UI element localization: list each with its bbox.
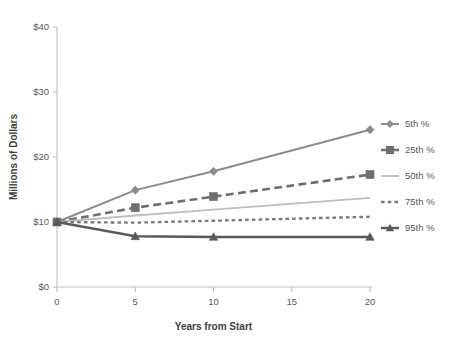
y-axis-title: Millions of Dollars bbox=[8, 114, 19, 201]
legend-item-5th-[interactable]: 5th % bbox=[381, 118, 430, 129]
chart-container: $0$10$20$30$4005101520Millions of Dollar… bbox=[0, 0, 449, 339]
data-point-25th--x20 bbox=[366, 171, 374, 179]
data-point-5th--x10 bbox=[209, 167, 217, 175]
y-axis-tick-label-40: $40 bbox=[33, 21, 49, 32]
data-point-5th--x5 bbox=[131, 186, 139, 194]
x-axis-tick-label-10: 10 bbox=[208, 296, 219, 307]
x-axis-tick-label-15: 15 bbox=[286, 296, 297, 307]
legend-item-75th-[interactable]: 75th % bbox=[381, 196, 435, 207]
y-axis-tick-label-10: $10 bbox=[33, 216, 49, 227]
legend-marker-square-icon bbox=[386, 146, 394, 154]
x-axis-title: Years from Start bbox=[175, 321, 253, 332]
legend-item-95th-[interactable]: 95th % bbox=[381, 222, 435, 233]
data-point-25th--x10 bbox=[210, 193, 218, 201]
x-axis-tick-label-20: 20 bbox=[365, 296, 376, 307]
legend-marker-diamond-icon bbox=[386, 120, 394, 128]
legend-label: 75th % bbox=[405, 196, 435, 207]
legend-label: 95th % bbox=[405, 222, 435, 233]
y-axis-tick-label-30: $30 bbox=[33, 86, 49, 97]
series-line-5th- bbox=[57, 130, 370, 222]
x-axis-tick-label-5: 5 bbox=[133, 296, 138, 307]
legend-item-50th-[interactable]: 50th % bbox=[381, 170, 435, 181]
x-axis-tick-label-0: 0 bbox=[54, 296, 59, 307]
legend-label: 25th % bbox=[405, 144, 435, 155]
line-chart: $0$10$20$30$4005101520Millions of Dollar… bbox=[0, 0, 449, 339]
y-axis-tick-label-20: $20 bbox=[33, 151, 49, 162]
legend-label: 5th % bbox=[405, 118, 430, 129]
legend-item-25th-[interactable]: 25th % bbox=[381, 144, 435, 155]
data-point-5th--x20 bbox=[366, 126, 374, 134]
legend-label: 50th % bbox=[405, 170, 435, 181]
series-line-50th- bbox=[57, 198, 370, 222]
y-axis-tick-label-0: $0 bbox=[38, 281, 49, 292]
data-point-25th--x5 bbox=[131, 204, 139, 212]
